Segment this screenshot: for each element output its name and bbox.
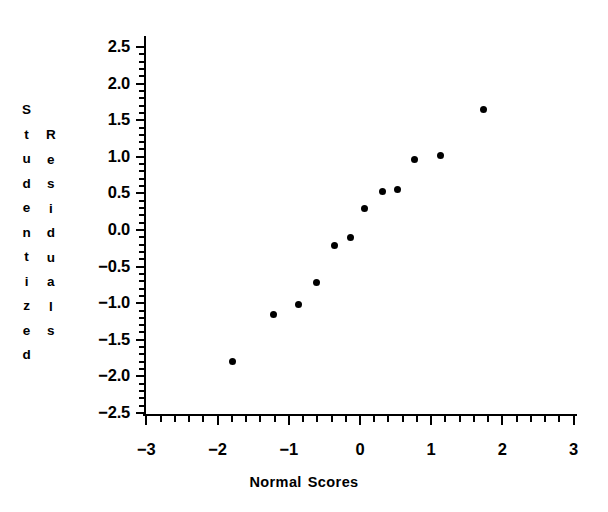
x-tick-label: 1 — [409, 440, 453, 459]
x-tick-major — [288, 416, 290, 425]
x-tick-minor — [188, 416, 190, 422]
y-tick-major — [136, 302, 145, 304]
x-tick-major — [501, 416, 503, 425]
y-axis-title-letter: d — [47, 221, 55, 246]
y-tick-minor — [139, 207, 145, 209]
y-tick-minor — [139, 317, 145, 319]
y-axis-title-letter: s — [47, 172, 55, 197]
y-tick-minor — [139, 331, 145, 333]
y-tick-minor — [139, 346, 145, 348]
y-axis-title-letter: u — [47, 246, 55, 271]
y-tick-major — [136, 229, 145, 231]
y-tick-minor — [139, 368, 145, 370]
y-tick-label: −1.0 — [68, 293, 130, 312]
y-tick-major — [136, 339, 145, 341]
y-tick-minor — [139, 222, 145, 224]
y-tick-minor — [139, 324, 145, 326]
y-tick-minor — [139, 163, 145, 165]
y-axis-title-letter: i — [49, 197, 53, 222]
y-tick-minor — [139, 148, 145, 150]
data-point — [411, 156, 418, 163]
x-tick-minor — [444, 416, 446, 422]
y-tick-minor — [139, 397, 145, 399]
x-tick-label: 0 — [338, 440, 382, 459]
y-tick-minor — [139, 383, 145, 385]
x-tick-minor — [274, 416, 276, 422]
y-tick-major — [136, 412, 145, 414]
y-axis-title-letter: a — [47, 270, 55, 295]
x-tick-major — [217, 416, 219, 425]
y-tick-minor — [139, 251, 145, 253]
y-axis-title-letter: z — [23, 294, 30, 319]
x-tick-minor — [302, 416, 304, 422]
y-tick-label: −0.5 — [68, 257, 130, 276]
y-tick-minor — [139, 68, 145, 70]
y-axis-title-letter: u — [22, 147, 30, 172]
y-axis-title-letter: n — [22, 221, 30, 246]
y-tick-label: 1.5 — [68, 110, 130, 129]
x-tick-major — [145, 416, 147, 425]
data-point — [270, 311, 277, 318]
data-point — [347, 234, 354, 241]
data-point — [361, 205, 368, 212]
x-tick-minor — [245, 416, 247, 422]
x-tick-label: 2 — [480, 440, 524, 459]
x-tick-minor — [487, 416, 489, 422]
x-tick-minor — [473, 416, 475, 422]
x-tick-minor — [231, 416, 233, 422]
y-axis-title-letter: e — [23, 196, 31, 221]
x-tick-minor — [259, 416, 261, 422]
y-tick-major — [136, 156, 145, 158]
y-tick-minor — [139, 310, 145, 312]
x-tick-minor — [373, 416, 375, 422]
y-tick-minor — [139, 200, 145, 202]
x-tick-minor — [402, 416, 404, 422]
x-tick-minor — [530, 416, 532, 422]
y-tick-label: −1.5 — [68, 330, 130, 349]
y-tick-minor — [139, 170, 145, 172]
y-tick-major — [136, 266, 145, 268]
y-tick-minor — [139, 97, 145, 99]
x-tick-major — [573, 416, 575, 425]
y-tick-minor — [139, 75, 145, 77]
y-axis-title-letter: i — [25, 270, 29, 295]
x-axis-title: NormalScores — [0, 474, 608, 490]
data-point — [295, 301, 302, 308]
y-tick-minor — [139, 134, 145, 136]
data-point — [379, 188, 386, 195]
x-tick-minor — [331, 416, 333, 422]
y-axis-title-letter: e — [47, 148, 55, 173]
y-axis-title-letter: t — [24, 123, 29, 148]
x-tick-minor — [516, 416, 518, 422]
x-tick-label: 3 — [552, 440, 596, 459]
data-point — [331, 242, 338, 249]
y-axis-line — [144, 36, 146, 416]
y-axis-title-letter: l — [49, 295, 53, 320]
y-tick-minor — [139, 61, 145, 63]
y-tick-minor — [139, 273, 145, 275]
x-tick-label: −1 — [267, 440, 311, 459]
y-axis-tick-labels: −2.5−2.0−1.5−1.0−0.50.00.51.01.52.02.5 — [64, 0, 130, 512]
x-tick-minor — [345, 416, 347, 422]
y-tick-label: 2.0 — [68, 74, 130, 93]
y-tick-minor — [139, 53, 145, 55]
y-axis-title-letter: s — [47, 319, 55, 344]
y-tick-minor — [139, 353, 145, 355]
x-tick-minor — [558, 416, 560, 422]
y-axis-title-letter: S — [22, 98, 31, 123]
x-axis-title-word: Scores — [308, 474, 359, 490]
y-tick-minor — [139, 288, 145, 290]
y-tick-minor — [139, 185, 145, 187]
x-tick-minor — [459, 416, 461, 422]
x-tick-minor — [387, 416, 389, 422]
y-tick-minor — [139, 244, 145, 246]
x-tick-minor — [202, 416, 204, 422]
y-tick-minor — [139, 280, 145, 282]
y-axis-title-letter: d — [22, 172, 30, 197]
y-tick-minor — [139, 112, 145, 114]
y-tick-major — [136, 375, 145, 377]
y-tick-minor — [139, 141, 145, 143]
data-point — [313, 279, 320, 286]
y-tick-minor — [139, 127, 145, 129]
x-tick-minor — [416, 416, 418, 422]
